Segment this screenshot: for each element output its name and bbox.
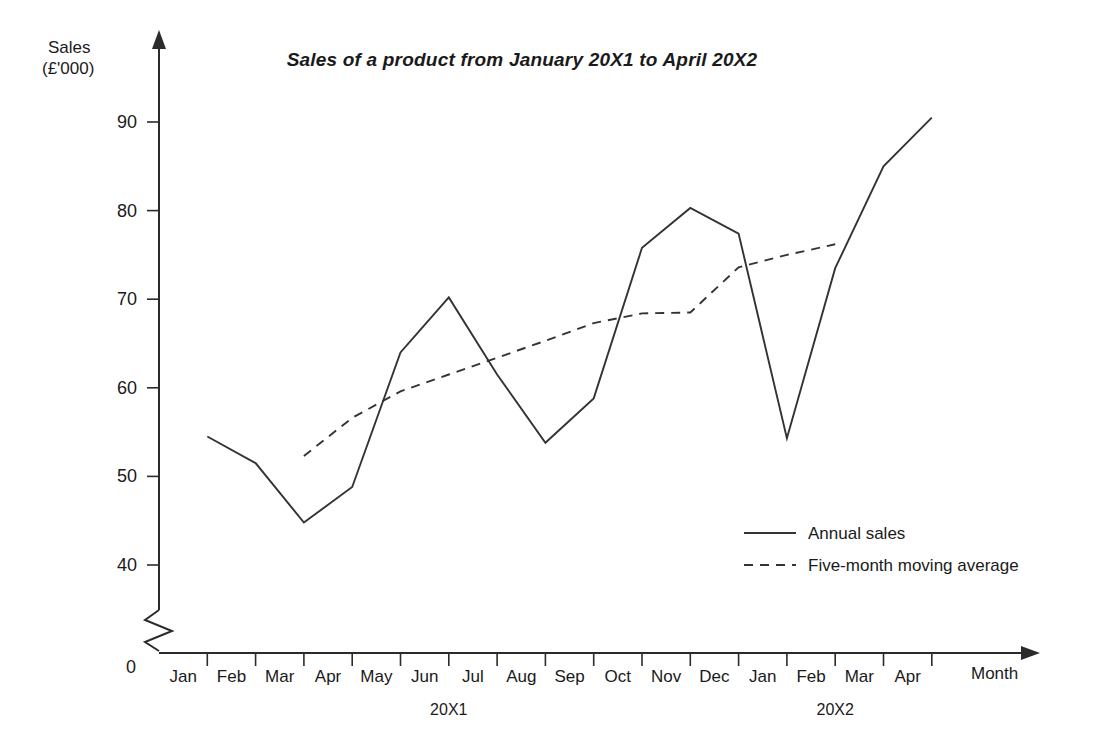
y-axis-title-line1: Sales xyxy=(48,38,91,57)
x-tick-label-mar-14: Mar xyxy=(845,667,875,686)
y-axis-title-line2: (£'000) xyxy=(42,59,94,78)
x-tick-label-jul-6: Jul xyxy=(462,667,484,686)
x-tick-label-jan-12: Jan xyxy=(749,667,776,686)
y-tick-label-60: 60 xyxy=(117,378,137,398)
x-tick-label-may-4: May xyxy=(360,667,393,686)
legend-label-annual-sales: Annual sales xyxy=(808,524,905,543)
year-label-20X2: 20X2 xyxy=(817,701,854,718)
origin-label: 0 xyxy=(126,657,136,677)
x-tick-label-aug-7: Aug xyxy=(506,667,536,686)
y-tick-label-80: 80 xyxy=(117,201,137,221)
x-tick-label-apr-15: Apr xyxy=(894,667,921,686)
x-tick-label-nov-10: Nov xyxy=(651,667,682,686)
x-axis-title: Month xyxy=(971,664,1018,683)
sales-line-chart: 405060708090 JanFebMarAprMayJunJulAugSep… xyxy=(0,0,1102,753)
x-tick-label-feb-13: Feb xyxy=(796,667,825,686)
x-axis-arrow-icon xyxy=(1021,646,1040,660)
x-tick-label-mar-2: Mar xyxy=(265,667,295,686)
y-axis-break-icon xyxy=(145,610,172,651)
x-tick-label-oct-9: Oct xyxy=(605,667,632,686)
x-tick-label-jan-0: Jan xyxy=(169,667,196,686)
series-annual-sales-line xyxy=(207,118,932,523)
x-tick-label-jun-5: Jun xyxy=(411,667,438,686)
y-axis-arrow-icon xyxy=(152,30,166,49)
legend: Annual sales Five-month moving average xyxy=(744,524,1019,575)
y-axis xyxy=(145,30,172,651)
x-tick-label-dec-11: Dec xyxy=(699,667,730,686)
y-tick-label-90: 90 xyxy=(117,112,137,132)
x-tick-group xyxy=(207,653,932,666)
y-tick-label-50: 50 xyxy=(117,466,137,486)
year-label-20X1: 20X1 xyxy=(430,701,467,718)
series-moving-average-line xyxy=(304,244,835,456)
chart-title: Sales of a product from January 20X1 to … xyxy=(287,49,758,70)
legend-label-moving-average: Five-month moving average xyxy=(808,556,1019,575)
y-tick-label-70: 70 xyxy=(117,289,137,309)
x-tick-label-sep-8: Sep xyxy=(554,667,584,686)
x-axis xyxy=(159,646,1040,660)
x-tick-label-feb-1: Feb xyxy=(217,667,246,686)
y-tick-label-40: 40 xyxy=(117,555,137,575)
y-tick-group: 405060708090 xyxy=(117,112,159,575)
year-label-group: 20X120X2 xyxy=(430,701,854,718)
x-tick-label-apr-3: Apr xyxy=(315,667,342,686)
chart-container: 405060708090 JanFebMarAprMayJunJulAugSep… xyxy=(0,0,1102,753)
x-tick-label-group: JanFebMarAprMayJunJulAugSepOctNovDecJanF… xyxy=(169,667,921,686)
